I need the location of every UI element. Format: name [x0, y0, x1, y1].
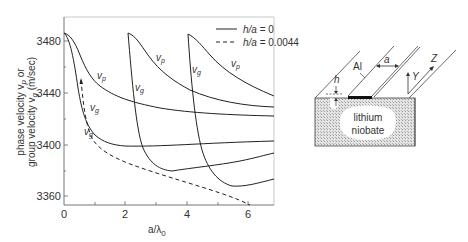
arrow-icon	[406, 72, 410, 76]
x-tick-0: 0	[61, 208, 67, 220]
height-label: h	[334, 74, 340, 85]
y-tick-3360: 3360	[37, 190, 61, 202]
label-vp-mode0: vp	[97, 70, 106, 83]
x-tick-2: 2	[122, 208, 128, 220]
x-tick-6: 6	[245, 208, 251, 220]
label-vg-dashed: vg	[84, 126, 93, 139]
y-axis-label: phase velocity vp or group velocity vg (…	[15, 57, 39, 167]
label-vg-mode1: vg	[135, 82, 144, 95]
legend-label-solid: h/a = 0	[243, 24, 274, 35]
y-tick-3400: 3400	[37, 139, 61, 151]
label-vg-mode2: vg	[192, 64, 201, 77]
curve-labels: vp vg vg vp vg vp vg	[84, 52, 240, 139]
curve-vg-mode2	[188, 34, 274, 186]
x-tick-4: 4	[184, 208, 190, 220]
y-tick-3440: 3440	[37, 87, 61, 99]
axis-y-label: Y	[412, 71, 420, 82]
y-ticks	[64, 41, 68, 196]
metal-label: Al	[353, 61, 362, 72]
axis-z-label: Z	[430, 53, 438, 64]
x-tick-labels: 0 2 4 6	[61, 208, 251, 220]
curves	[64, 33, 274, 205]
legend: h/a = 0 h/a = 0.0044	[216, 24, 299, 48]
substrate-label-line2: niobate	[352, 125, 385, 136]
label-vp-mode1: vp	[156, 52, 165, 65]
x-ticks	[95, 201, 248, 205]
label-vg-mode0: vg	[90, 102, 99, 115]
y-tick-labels: 3480 3440 3400 3360	[37, 35, 61, 202]
substrate-label-line1: lithium	[354, 112, 383, 123]
arrow-icon	[80, 78, 84, 84]
curve-vg-mode1	[128, 33, 274, 171]
width-label: a	[384, 54, 390, 65]
figure: 3480 3440 3400 3360 0 2 4 6 a/λ0 phase v…	[0, 0, 468, 242]
waveguide-diagram: lithium niobate Al a h Y Z	[315, 46, 456, 146]
arrow-icon	[334, 91, 338, 94]
x-axis-label: a/λ0	[148, 224, 166, 238]
legend-label-dashed: h/a = 0.0044	[243, 37, 299, 48]
label-vp-mode2: vp	[231, 58, 240, 71]
y-tick-3480: 3480	[37, 35, 61, 47]
curve-vg-mode0	[64, 33, 274, 146]
metal-strip	[348, 96, 372, 99]
